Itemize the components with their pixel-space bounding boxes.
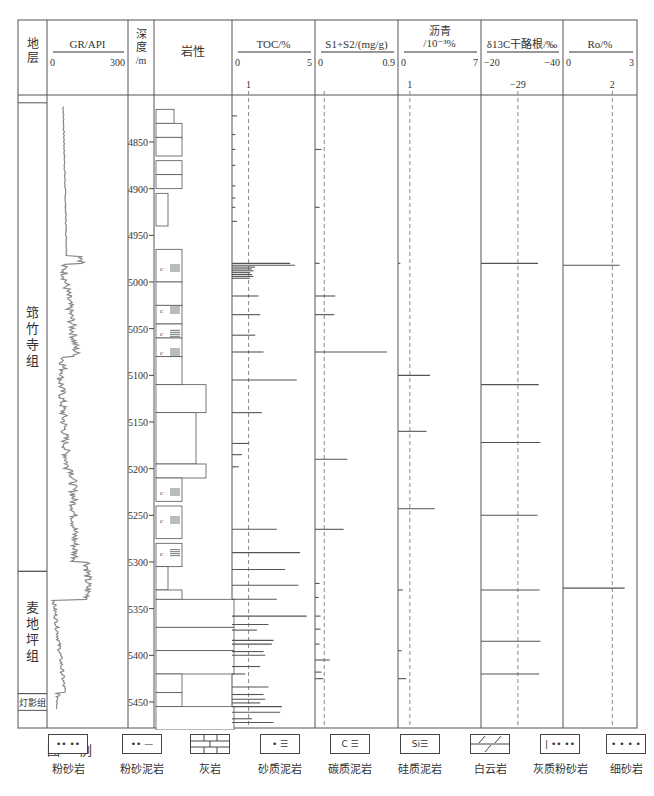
- legend-item: • ☰砂质泥岩: [245, 734, 315, 776]
- scale-max: 7: [473, 57, 478, 68]
- lithology-bed: [156, 413, 196, 464]
- header-ro: Ro/%: [587, 38, 612, 50]
- legend-label: 硅质泥岩: [385, 760, 455, 776]
- series-toc: [232, 116, 307, 723]
- scale-min: 0: [566, 57, 571, 68]
- formation-label: 组: [26, 648, 39, 663]
- legend-label: 粉砂岩: [33, 760, 103, 776]
- legend-swatch: [470, 734, 510, 754]
- series-bitumen: [398, 263, 435, 678]
- legend-symbol-icon: •• —: [123, 735, 161, 753]
- series-ro: [563, 265, 625, 588]
- lithology-bed: [156, 627, 234, 650]
- lithology-bed: [156, 137, 182, 156]
- formation-label: 麦: [26, 600, 39, 615]
- legend-label: 白云岩: [455, 760, 525, 776]
- legend-swatch: C ☰: [330, 734, 370, 754]
- legend-swatch: • ☰: [260, 734, 300, 754]
- reference-label: −29: [510, 79, 526, 90]
- depth-tick-label: 4950: [128, 230, 148, 241]
- legend-symbol-icon: | •• ••: [541, 735, 579, 753]
- table-frame: [18, 20, 637, 728]
- legend-symbol-icon: • • • •: [607, 735, 645, 753]
- legend-item: | •• ••灰质粉砂岩: [525, 734, 595, 776]
- depth-tick-label: 5350: [128, 604, 148, 615]
- legend-item: •• —粉砂泥岩: [107, 734, 177, 776]
- lithology-bed: [156, 651, 234, 674]
- depth-tick-label: 5050: [128, 324, 148, 335]
- depth-tick-label: 5450: [128, 697, 148, 708]
- reference-label: 1: [246, 79, 251, 90]
- lithology-symbol: c: [160, 349, 163, 357]
- lithology-bed: [156, 674, 182, 693]
- reference-label: 2: [610, 79, 615, 90]
- scale-max: 300: [110, 57, 125, 68]
- lithology-bed: [156, 599, 234, 627]
- legend-label: 碳质泥岩: [315, 760, 385, 776]
- depth-tick-label: 5100: [128, 370, 148, 381]
- legend-item: • • • •细砂岩: [591, 734, 654, 776]
- legend: 图 例 •• ••粉砂岩•• —粉砂泥岩灰岩• ☰砂质泥岩C ☰碳质泥岩Si☰硅…: [0, 730, 654, 780]
- scale-max: 0.9: [383, 57, 396, 68]
- scale-min: 0: [401, 57, 406, 68]
- header-strata: 地: [27, 37, 39, 51]
- series-s1s2: [315, 149, 387, 678]
- lithology-bed: [156, 693, 182, 707]
- lithology-symbol: c: [160, 517, 163, 525]
- formation-label: 竹: [26, 321, 39, 336]
- header-s1s2: S1+S2/(mg/g): [325, 38, 388, 51]
- lithology-bed: [156, 109, 174, 123]
- lithology-bed: [156, 385, 206, 413]
- legend-symbol-icon: Si☰: [401, 735, 439, 753]
- formation-label: 筇: [26, 305, 39, 320]
- scale-min: 0: [318, 57, 323, 68]
- series-d13c: [481, 263, 540, 674]
- lithology-bed: [156, 590, 182, 599]
- scale-min: 0: [50, 57, 55, 68]
- header-bitumen: 沥青: [429, 25, 451, 37]
- lithology-bed: [156, 567, 168, 590]
- legend-item: 灰岩: [175, 734, 245, 776]
- depth-tick-label: 5400: [128, 650, 148, 661]
- header-d13c: δ13C干酪根/‰: [487, 37, 558, 50]
- lithology-bed: [156, 161, 182, 175]
- legend-item: 白云岩: [455, 734, 525, 776]
- lithology-symbol: c: [160, 330, 163, 338]
- formation-label: 寺: [26, 337, 39, 352]
- formation-label: 地: [26, 616, 39, 631]
- header-strata: 层: [27, 51, 39, 65]
- header-toc: TOC/%: [256, 38, 290, 50]
- well-log-figure: 地层GR/API0300深度/m岩性TOC/%05S1+S2/(mg/g)00.…: [0, 0, 654, 730]
- lithology-bed: [156, 193, 168, 226]
- depth-tick-label: 5150: [128, 417, 148, 428]
- depth-tick-label: 5000: [128, 277, 148, 288]
- legend-swatch: • • • •: [606, 734, 646, 754]
- legend-symbol-icon: •• ••: [49, 735, 87, 753]
- legend-symbol-icon: C ☰: [331, 735, 369, 753]
- legend-item: •• ••粉砂岩: [33, 734, 103, 776]
- lithology-bed: [156, 707, 234, 730]
- scale-min: 0: [235, 57, 240, 68]
- header-lithology: 岩性: [181, 44, 205, 59]
- legend-symbol-icon: [191, 735, 229, 753]
- legend-swatch: •• —: [122, 734, 162, 754]
- lithology-symbol: c: [160, 265, 163, 273]
- legend-swatch: Si☰: [400, 734, 440, 754]
- header-gr: GR/API: [69, 38, 105, 50]
- scale-max: 5: [307, 57, 312, 68]
- legend-label: 灰质粉砂岩: [525, 760, 595, 776]
- lithology-symbol: c: [160, 489, 163, 497]
- gr-curve: [52, 107, 91, 710]
- legend-swatch: •• ••: [48, 734, 88, 754]
- scale-max: −40: [544, 57, 560, 68]
- scale-min: −20: [484, 57, 500, 68]
- legend-symbol-icon: [471, 735, 509, 753]
- header-depth: /m: [136, 55, 147, 66]
- header-depth: 深: [136, 28, 147, 40]
- header-depth: 度: [136, 40, 147, 53]
- header-bitumen: /10⁻³%: [423, 37, 455, 49]
- legend-label: 粉砂泥岩: [107, 760, 177, 776]
- legend-label: 灰岩: [175, 760, 245, 776]
- legend-item: Si☰硅质泥岩: [385, 734, 455, 776]
- formation-label: 组: [26, 353, 39, 368]
